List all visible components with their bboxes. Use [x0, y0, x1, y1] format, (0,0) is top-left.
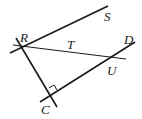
geometry-diagram: R S T D U C: [0, 0, 142, 119]
label-U: U: [107, 63, 118, 78]
right-angle-marker: [49, 85, 57, 90]
label-T: T: [67, 37, 75, 52]
label-C: C: [41, 102, 50, 117]
label-D: D: [123, 32, 134, 47]
label-S: S: [104, 9, 111, 24]
label-R: R: [19, 30, 28, 45]
line-CD: [40, 42, 135, 102]
